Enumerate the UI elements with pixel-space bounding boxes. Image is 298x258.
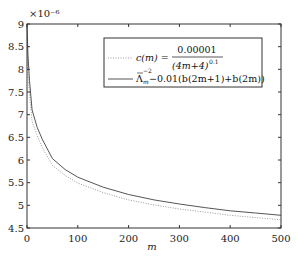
y-tick-label: 6.5	[8, 132, 24, 143]
legend-entry-1-lhs: c(m) =	[136, 52, 169, 63]
y-tick-label: 7.5	[8, 87, 24, 98]
x-tick-label: 400	[221, 233, 240, 244]
x-tick-label: 200	[119, 233, 138, 244]
y-multiplier-label: ×10⁻⁶	[29, 8, 59, 19]
y-tick-label: 8	[18, 64, 24, 75]
legend: c(m) = 0.00001 (4m+4) 0.1 Λ −2 m −0.01(b…	[104, 38, 265, 87]
x-tick-label: 100	[68, 233, 87, 244]
legend-entry-2-rest: −0.01(b(2m+1)+b(2m))	[149, 73, 265, 84]
legend-entry-2-symbol: Λ	[135, 73, 143, 84]
y-tick-label: 7	[18, 109, 24, 120]
y-tick-label: 6	[18, 155, 24, 166]
line-chart: 01002003004005004.555.566.577.588.59 ×10…	[0, 0, 298, 258]
y-tick-label: 8.5	[8, 41, 24, 52]
y-tick-label: 4.5	[8, 223, 24, 234]
legend-entry-1-numerator: 0.00001	[177, 44, 216, 55]
legend-entry-1-denominator: (4m+4)	[172, 60, 209, 71]
x-tick-label: 500	[271, 233, 290, 244]
legend-entry-1-exponent: 0.1	[209, 58, 219, 65]
x-tick-label: 300	[170, 233, 189, 244]
x-tick-label: 0	[24, 233, 30, 244]
y-tick-label: 9	[18, 19, 24, 30]
y-tick-label: 5	[18, 200, 24, 211]
y-tick-label: 5.5	[8, 177, 24, 188]
x-axis-label: m	[147, 241, 156, 252]
